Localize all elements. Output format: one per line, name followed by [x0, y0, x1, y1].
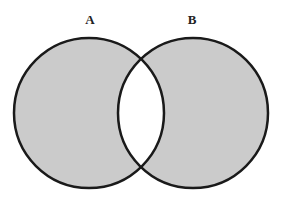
venn-svg: A B — [0, 0, 282, 198]
venn-diagram: A B — [0, 0, 282, 198]
set-b-label: B — [188, 12, 197, 27]
set-a-label: A — [85, 12, 95, 27]
